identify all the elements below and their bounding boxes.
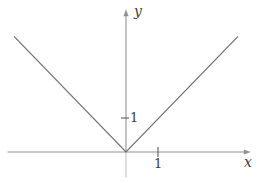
x-tick-label-1: 1 [154,157,162,170]
absolute-value-plot: y x 1 1 [0,0,265,183]
y-tick-label-1: 1 [130,111,138,124]
plot-canvas [0,0,265,183]
x-axis-label: x [244,155,252,169]
y-axis-label: y [134,4,142,18]
